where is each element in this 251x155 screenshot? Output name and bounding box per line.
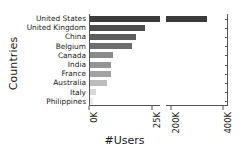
y-tick [225,51,228,60]
bar-row [89,14,160,23]
bar-row [89,23,160,32]
bar-row [166,23,228,32]
y-tick [225,78,228,87]
bar-row [166,78,228,87]
x-tick-label: 200K [171,112,181,133]
bar [89,25,145,31]
bar [89,43,132,49]
bar [89,34,136,40]
bar-row [89,69,160,78]
bar [89,16,160,22]
y-tick [225,23,228,32]
category-label: United States [20,14,88,23]
y-tick [225,42,228,51]
x-tick-label: 0K [89,112,99,123]
x-tick [152,106,153,110]
category-label: United Kingdom [20,23,88,32]
bar-row [166,60,228,69]
bar [89,71,111,77]
x-axis-label: #Users [89,134,160,147]
category-label: Italy [20,88,88,97]
bar-row [166,69,228,78]
chart-panel-left: 0K25K [89,14,160,106]
category-label: India [20,60,88,69]
bar [89,52,113,58]
bar-row [89,32,160,41]
bar-row [89,42,160,51]
plot-area-right [166,14,228,106]
y-tick [225,97,228,106]
bar-row [166,14,228,23]
y-tick [225,14,228,23]
y-tick [225,88,228,97]
bar-chart-figure: Countries United StatesUnited KingdomChi… [0,0,251,155]
x-tick-label: 25K [152,112,162,128]
bar [89,80,107,86]
bar [89,62,111,68]
bar-row [166,42,228,51]
category-label: China [20,32,88,41]
y-tick [225,60,228,69]
y-ticks-right [225,14,228,106]
category-label: Philippines [20,97,88,106]
category-label: Canada [20,51,88,60]
category-label: Australia [20,78,88,87]
y-tick [225,32,228,41]
bar-row [89,88,160,97]
category-label: Belgium [20,42,88,51]
x-tick [89,106,90,110]
bar-row [166,88,228,97]
y-tick [225,69,228,78]
category-label: France [20,69,88,78]
x-tick [171,106,172,110]
x-ticks-left: 0K25K [89,106,160,111]
bar-row [166,32,228,41]
y-axis-label-text: Countries [8,36,21,90]
chart-panel-right: 200K400K [166,14,228,106]
bar-row [89,60,160,69]
plot-area-left [89,14,160,106]
axis-spine-left [89,14,90,106]
bar [166,16,207,22]
category-labels: United StatesUnited KingdomChinaBelgiumC… [20,14,88,106]
x-tick-label: 400K [223,112,233,133]
x-ticks-right: 200K400K [166,106,228,111]
bar-row [166,51,228,60]
bar-row [89,78,160,87]
x-tick [222,106,223,110]
bar-row [89,51,160,60]
